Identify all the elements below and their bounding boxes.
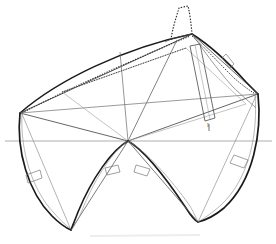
- keel-line-left: [22, 114, 71, 230]
- hull-lines-drawing-figure: l: [0, 0, 276, 244]
- bow-curve-dotted: [192, 36, 257, 95]
- diagonal-center-to-left-vertex: [20, 113, 128, 141]
- sheer-line-dotted: [20, 36, 190, 114]
- paper-smudge: [90, 235, 200, 236]
- bow-chord-straight: [192, 34, 258, 94]
- station-tick-label: l: [207, 122, 209, 129]
- drawing-canvas: [0, 0, 276, 244]
- keel-line-right: [198, 96, 256, 222]
- buttock-line-right: [128, 141, 198, 222]
